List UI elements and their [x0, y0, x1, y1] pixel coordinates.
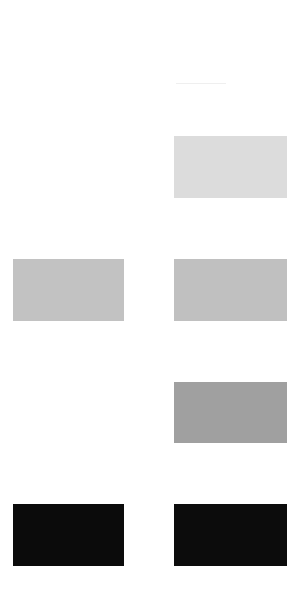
swatch-row2-right — [174, 259, 287, 321]
header-underline — [176, 83, 226, 84]
swatch-row1-right — [174, 136, 287, 198]
swatch-row3-right — [174, 382, 287, 443]
swatch-row4-left — [13, 504, 124, 566]
swatch-row2-left — [13, 259, 124, 321]
swatch-row4-right — [174, 504, 287, 566]
